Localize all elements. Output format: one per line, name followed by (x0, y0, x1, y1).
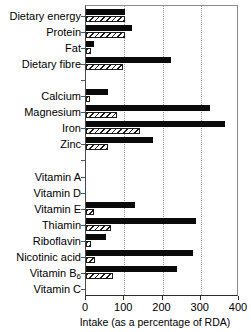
y-axis-tick (81, 177, 85, 178)
bar-hatched (86, 273, 113, 279)
bar-hatched (86, 209, 94, 215)
bar-chart: Dietary energyProteinFatDietary fibreCal… (0, 0, 251, 332)
bar-solid (86, 202, 135, 208)
y-axis-tick (81, 225, 85, 226)
x-axis-tick-label: 0 (65, 300, 105, 314)
bar-solid (86, 57, 171, 63)
y-axis-tick (81, 96, 85, 97)
bar-solid (86, 137, 153, 143)
bar-solid (86, 250, 193, 256)
bar-solid (86, 105, 210, 111)
category-label: Vitamin C (0, 280, 81, 299)
bar-hatched (86, 32, 125, 38)
bar-hatched (86, 128, 140, 134)
bar-hatched (86, 48, 91, 54)
x-axis-tick-label: 100 (103, 300, 143, 314)
x-axis-title: Intake (as a percentage of RDA) (60, 315, 250, 329)
bar-solid (86, 121, 225, 127)
bar-hatched (86, 112, 117, 118)
y-axis-tick (81, 257, 85, 258)
bar-solid (86, 41, 94, 47)
y-axis-tick (81, 209, 85, 210)
bar-hatched (86, 257, 95, 263)
bar-solid (86, 218, 196, 224)
y-axis-tick (81, 112, 85, 113)
bar-hatched (86, 225, 111, 231)
x-axis-tick-label: 300 (180, 300, 220, 314)
x-axis-tick-label: 400 (218, 300, 251, 314)
bar-solid (86, 9, 125, 15)
y-axis-tick (81, 144, 85, 145)
bar-solid (86, 25, 132, 31)
bar-hatched (86, 144, 108, 150)
y-axis-tick (81, 241, 85, 242)
bar-hatched (86, 96, 90, 102)
y-axis-tick (81, 64, 85, 65)
y-axis-tick (81, 32, 85, 33)
x-axis-tick-labels: 0100200300400 (0, 300, 251, 314)
bar-hatched (86, 241, 91, 247)
bar-solid (86, 266, 177, 272)
y-axis-tick (81, 128, 85, 129)
bar-solid (86, 234, 106, 240)
x-axis-tick-label: 200 (142, 300, 182, 314)
y-axis-tick (81, 48, 85, 49)
y-axis-tick (81, 80, 85, 81)
y-axis-tick (81, 160, 85, 161)
y-axis-tick (81, 289, 85, 290)
bar-hatched (86, 64, 123, 70)
y-axis-tick (81, 16, 85, 17)
bar-solid (86, 89, 108, 95)
bar-hatched (86, 16, 125, 22)
y-axis-tick (81, 193, 85, 194)
y-axis-tick (81, 273, 85, 274)
